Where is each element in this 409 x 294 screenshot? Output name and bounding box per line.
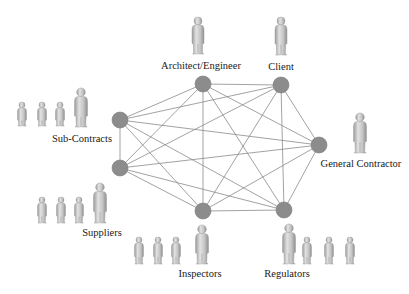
network-svg: Architect/EngineerClientGeneral Contract… bbox=[0, 0, 409, 294]
person-icon bbox=[94, 183, 107, 223]
edge-architect-client bbox=[203, 84, 281, 85]
edge-client-suppliers bbox=[120, 85, 281, 168]
node-suppliers[interactable] bbox=[112, 160, 128, 176]
person-icon bbox=[38, 102, 47, 126]
person-icon bbox=[38, 197, 47, 223]
node-sub-contracts[interactable] bbox=[112, 112, 128, 128]
edge-inspectors-suppliers bbox=[120, 168, 203, 211]
edge-architect-general-contractor bbox=[203, 84, 319, 145]
edge-inspectors-sub-contracts bbox=[120, 120, 203, 211]
label-client: Client bbox=[268, 61, 294, 72]
edge-general-contractor-suppliers bbox=[120, 145, 319, 168]
edge-general-contractor-sub-contracts bbox=[120, 120, 319, 145]
edge-architect-sub-contracts bbox=[120, 84, 203, 120]
node-inspectors[interactable] bbox=[195, 203, 211, 219]
person-icon bbox=[196, 225, 209, 264]
label-suppliers: Suppliers bbox=[82, 227, 122, 238]
person-icon bbox=[346, 237, 355, 264]
edge-regulators-inspectors bbox=[203, 210, 284, 211]
person-icon bbox=[354, 113, 367, 153]
edge-client-regulators bbox=[281, 85, 284, 210]
person-icon bbox=[154, 237, 163, 264]
edge-client-general-contractor bbox=[281, 85, 319, 145]
stakeholder-network-diagram: Architect/EngineerClientGeneral Contract… bbox=[0, 0, 409, 294]
person-icon bbox=[283, 224, 296, 264]
person-icon bbox=[325, 237, 334, 264]
label-inspectors: Inspectors bbox=[178, 268, 221, 279]
node-client[interactable] bbox=[273, 77, 289, 93]
person-icon bbox=[75, 197, 84, 223]
node-general-contractor[interactable] bbox=[311, 137, 327, 153]
node-regulators[interactable] bbox=[276, 202, 292, 218]
person-icon bbox=[135, 237, 144, 264]
person-icon bbox=[192, 17, 204, 54]
person-icon bbox=[57, 197, 66, 223]
person-icon bbox=[303, 237, 312, 264]
person-icon bbox=[75, 88, 88, 127]
connection-lines bbox=[120, 84, 319, 211]
node-architect[interactable] bbox=[195, 76, 211, 92]
person-icon bbox=[275, 17, 287, 55]
person-icon bbox=[56, 102, 65, 126]
label-regulators: Regulators bbox=[264, 268, 310, 279]
label-sub-contracts: Sub-Contracts bbox=[52, 133, 112, 144]
person-icon bbox=[18, 102, 27, 126]
edge-architect-suppliers bbox=[120, 84, 203, 168]
person-icon bbox=[172, 237, 181, 264]
label-general-contractor: General Contractor bbox=[321, 158, 402, 169]
label-architect: Architect/Engineer bbox=[161, 60, 241, 71]
